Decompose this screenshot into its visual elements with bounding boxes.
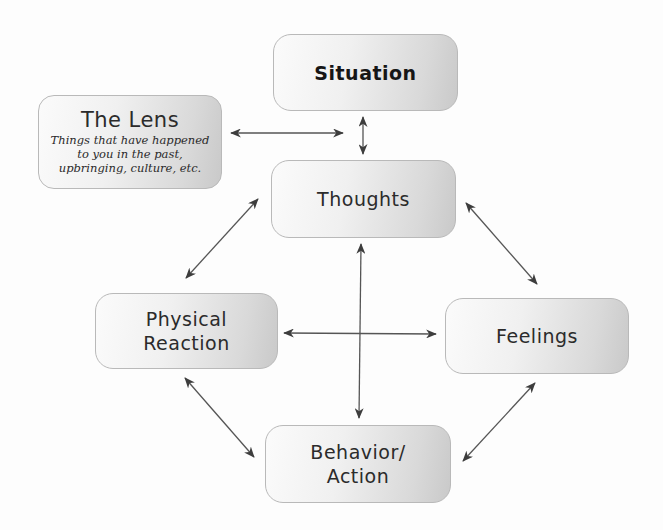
- arrow-thoughts-feelings: [466, 203, 537, 284]
- arrow-thoughts-physical: [186, 199, 258, 278]
- node-feelings-label: Feelings: [496, 324, 578, 348]
- node-behavior-action: Behavior/ Action: [265, 425, 451, 503]
- arrow-physical-behavior: [185, 378, 254, 457]
- node-situation-label: Situation: [314, 61, 416, 85]
- node-lens-description-line: to you in the past,: [77, 148, 182, 161]
- node-lens-label: The Lens: [81, 108, 179, 133]
- diagram-canvas: Situation The Lens Things that have happ…: [0, 0, 663, 530]
- node-behavior-label-line: Behavior/: [310, 440, 405, 464]
- node-situation: Situation: [273, 34, 458, 111]
- node-thoughts: Thoughts: [271, 160, 456, 238]
- node-lens-description-line: Things that have happened: [51, 134, 210, 147]
- node-behavior-label-line: Action: [327, 464, 390, 488]
- node-the-lens: The Lens Things that have happened to yo…: [38, 95, 222, 189]
- node-lens-description-line: upbringing, culture, etc.: [59, 162, 202, 175]
- node-physical-label-line: Reaction: [143, 331, 230, 355]
- node-physical-reaction: Physical Reaction: [95, 293, 278, 369]
- node-physical-label-line: Physical: [146, 307, 227, 331]
- node-feelings: Feelings: [445, 298, 629, 374]
- arrow-thoughts-behavior: [359, 244, 361, 418]
- arrow-feelings-behavior: [463, 383, 535, 461]
- arrow-physical-feelings: [284, 333, 436, 334]
- node-thoughts-label: Thoughts: [317, 187, 410, 211]
